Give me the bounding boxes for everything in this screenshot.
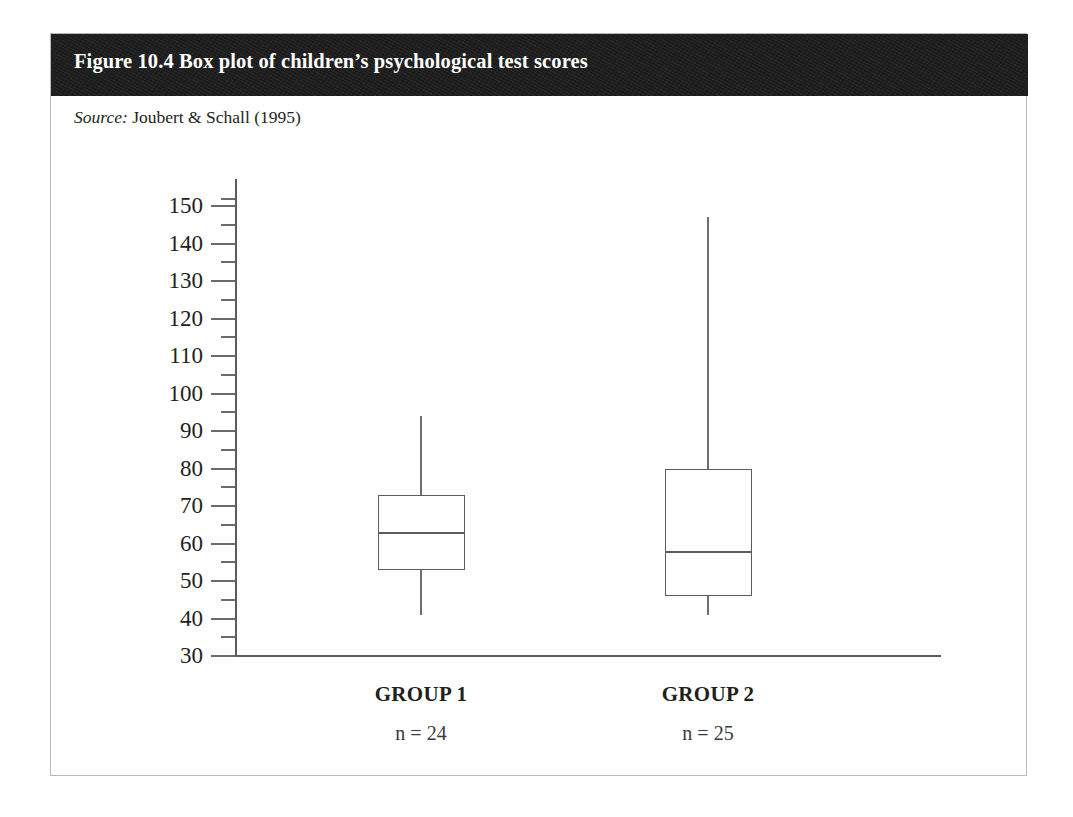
y-tick-label-110: 110 [143,344,203,367]
y-tick-major-110 [211,355,235,357]
y-tick-major-50 [211,580,235,582]
y-tick-major-90 [211,430,235,432]
y-tick-label-90: 90 [143,419,203,442]
y-tick-minor-95 [221,411,235,413]
y-tick-minor-125 [221,299,235,301]
y-tick-label-150: 150 [143,194,203,217]
y-tick-major-100 [211,393,235,395]
y-tick-label-50: 50 [143,569,203,592]
y-tick-major-140 [211,243,235,245]
median-line-group-2 [665,551,752,553]
y-tick-minor-115 [221,336,235,338]
x-axis-line [235,655,941,657]
y-tick-label-40: 40 [143,607,203,630]
figure-page: Figure 10.4 Box plot of children’s psych… [0,0,1073,817]
whisker-upper-group-2 [707,217,709,468]
y-tick-major-130 [211,280,235,282]
group-sample-size-2: n = 25 [598,722,818,745]
group-sample-size-1: n = 24 [311,722,531,745]
whisker-lower-group-2 [707,596,709,615]
group-label-2: GROUP 2 [598,682,818,707]
y-tick-major-40 [211,618,235,620]
y-tick-major-120 [211,318,235,320]
box-plot-canvas: 30405060708090100110120130140150 GROUP 1… [51,34,1028,777]
y-tick-major-60 [211,543,235,545]
y-tick-label-140: 140 [143,232,203,255]
y-tick-minor-35 [221,636,235,638]
y-tick-minor-65 [221,524,235,526]
y-tick-minor-105 [221,374,235,376]
median-line-group-1 [378,532,465,534]
y-axis-line [235,179,237,657]
y-tick-minor-145 [221,224,235,226]
y-tick-label-100: 100 [143,382,203,405]
whisker-upper-group-1 [420,416,422,495]
y-tick-minor-135 [221,261,235,263]
y-tick-label-60: 60 [143,532,203,555]
y-tick-major-30 [211,655,235,657]
y-tick-label-70: 70 [143,494,203,517]
y-tick-label-30: 30 [143,644,203,667]
box-group-2 [665,469,752,597]
y-tick-minor-85 [221,449,235,451]
y-tick-label-130: 130 [143,269,203,292]
figure-frame: Figure 10.4 Box plot of children’s psych… [50,33,1027,776]
y-tick-minor-45 [221,599,235,601]
group-label-1: GROUP 1 [311,682,531,707]
y-tick-label-80: 80 [143,457,203,480]
y-tick-minor-55 [221,561,235,563]
y-tick-minor-75 [221,486,235,488]
y-tick-major-80 [211,468,235,470]
whisker-lower-group-1 [420,570,422,615]
y-tick-label-120: 120 [143,307,203,330]
figure-title: Figure 10.4 Box plot of children’s psych… [74,50,588,73]
y-tick-minor-152 [221,198,235,200]
y-tick-major-70 [211,505,235,507]
y-tick-major-150 [211,205,235,207]
